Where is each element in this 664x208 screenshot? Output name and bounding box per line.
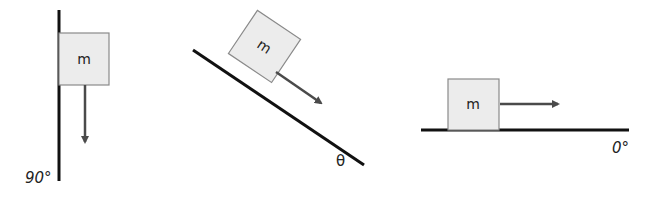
panel-vertical: m 90° <box>25 10 109 187</box>
angle-label-theta: θ <box>336 152 345 170</box>
panel-horizontal: m 0° <box>421 79 629 157</box>
inclined-plane-diagram: m 90° m θ m 0° <box>0 0 664 208</box>
angle-label-0: 0° <box>612 139 629 157</box>
force-arrow-downslope-icon <box>276 72 321 103</box>
panel-incline: m θ <box>193 10 364 170</box>
mass-label: m <box>77 51 91 67</box>
mass-label: m <box>466 96 480 112</box>
angle-label-90: 90° <box>25 169 52 187</box>
